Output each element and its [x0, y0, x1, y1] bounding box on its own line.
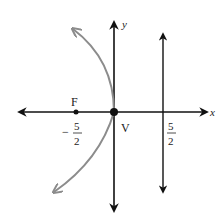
- parabola-curve: [54, 29, 114, 192]
- parabola-diagram: x y F V − 5 2 5 2: [0, 0, 223, 215]
- vertex-label: V: [121, 121, 130, 135]
- y-axis-label: y: [121, 18, 127, 30]
- focus-point: [74, 110, 79, 115]
- focus-denominator: 2: [74, 135, 80, 147]
- x-axis-label: x: [209, 106, 215, 118]
- focus-numerator: 5: [74, 120, 80, 132]
- vertex-point: [110, 108, 118, 116]
- directrix-denominator: 2: [168, 135, 174, 147]
- focus-label: F: [71, 95, 78, 109]
- directrix-numerator: 5: [168, 120, 174, 132]
- focus-minus-sign: −: [62, 125, 69, 139]
